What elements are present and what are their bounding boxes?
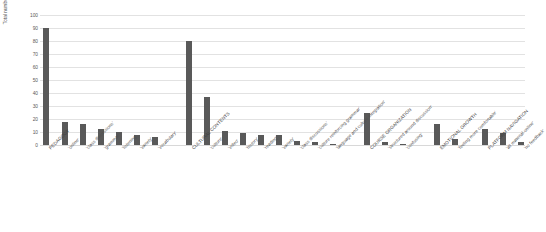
x-axis-tick-labels: PEDAGOGY'online''class discussions''gram… bbox=[40, 147, 528, 232]
y-axis-tick-label: 60 bbox=[22, 65, 38, 70]
bar bbox=[434, 124, 440, 145]
gridline bbox=[40, 106, 525, 107]
gridline bbox=[40, 28, 525, 29]
y-axis-tick-label: 30 bbox=[22, 104, 38, 109]
gridline bbox=[40, 15, 525, 16]
bar bbox=[294, 141, 300, 145]
bar bbox=[482, 129, 488, 145]
y-axis-tick-label: 50 bbox=[22, 78, 38, 83]
bar bbox=[400, 144, 406, 145]
gridline bbox=[40, 54, 525, 55]
gridline bbox=[40, 41, 525, 42]
bar bbox=[382, 142, 388, 145]
bar bbox=[80, 124, 86, 145]
y-axis-tick-labels: 1009080706050403020100 bbox=[18, 15, 38, 145]
y-axis-tick-label: 0 bbox=[22, 143, 38, 148]
y-axis-tick-label: 70 bbox=[22, 52, 38, 57]
bar bbox=[518, 142, 524, 145]
y-axis-title: Total number of comments bbox=[0, 0, 12, 48]
bar bbox=[312, 142, 318, 145]
y-axis-tick-label: 80 bbox=[22, 39, 38, 44]
gridline bbox=[40, 67, 525, 68]
y-axis-tick-label: 10 bbox=[22, 130, 38, 135]
y-axis-tick-label: 90 bbox=[22, 26, 38, 31]
y-axis-tick-label: 20 bbox=[22, 117, 38, 122]
bar bbox=[186, 41, 192, 145]
bar bbox=[240, 133, 246, 145]
y-axis-tick-label: 40 bbox=[22, 91, 38, 96]
bar bbox=[330, 144, 336, 145]
gridline bbox=[40, 80, 525, 81]
bar bbox=[43, 28, 49, 145]
y-axis-tick-label: 100 bbox=[22, 13, 38, 18]
gridline bbox=[40, 119, 525, 120]
gridline bbox=[40, 93, 525, 94]
